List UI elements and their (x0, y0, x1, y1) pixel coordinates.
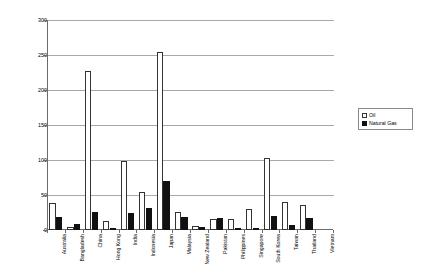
x-axis-label-south-korea: South Korea (274, 234, 283, 275)
x-axis-label-pakistan: Pakistan (221, 234, 230, 275)
x-axis-label-india: India (131, 234, 140, 275)
x-axis-label-indonesia: Indonesia (149, 234, 158, 275)
bar-gas (289, 225, 295, 230)
x-axis-label-taiwan: Taiwan (292, 234, 301, 275)
x-axis-label-japan: Japan (167, 234, 176, 275)
bar-group (282, 20, 295, 230)
x-tick-mark (47, 230, 48, 233)
x-tick-mark (119, 230, 120, 233)
bar-gas (92, 212, 98, 230)
legend-item-oil: Oil (362, 111, 410, 119)
bar-group (210, 20, 223, 230)
x-tick-mark (279, 230, 280, 233)
bar-group (103, 20, 116, 230)
bar-gas (163, 181, 169, 230)
bar-group (175, 20, 188, 230)
bar-group (318, 20, 331, 230)
legend: Oil Natural Gas (358, 108, 413, 130)
bar-group (192, 20, 205, 230)
bar-group (139, 20, 152, 230)
bar-gas (235, 228, 241, 230)
x-axis-label-philippines: Philippines (239, 234, 248, 275)
bar-group (157, 20, 170, 230)
bar-group (228, 20, 241, 230)
bar-gas (56, 217, 62, 230)
legend-swatch-natural-gas-icon (362, 121, 367, 126)
x-tick-mark (65, 230, 66, 233)
bar-group (49, 20, 62, 230)
bar-oil (67, 227, 73, 230)
x-tick-mark (190, 230, 191, 233)
bar-group (246, 20, 259, 230)
x-axis-label-malaysia: Malaysia (185, 234, 194, 275)
x-axis-label-china: China (96, 234, 105, 275)
bar-group (264, 20, 277, 230)
x-axis-label-new-zealand: New Zealand (203, 234, 212, 275)
bar-oil (157, 52, 163, 231)
bar-oil (210, 219, 216, 230)
bar-oil (192, 226, 198, 230)
bar-gas (253, 228, 259, 230)
bar-gas (128, 213, 134, 230)
x-tick-mark (297, 230, 298, 233)
x-tick-mark (136, 230, 137, 233)
bar-oil (175, 212, 181, 230)
x-tick-mark (83, 230, 84, 233)
x-tick-mark (208, 230, 209, 233)
bar-oil (139, 192, 145, 231)
x-tick-mark (226, 230, 227, 233)
x-axis-label-australia: Australia (60, 234, 69, 275)
legend-label-natural-gas: Natural Gas (369, 119, 397, 127)
bar-gas (217, 218, 223, 230)
bar-group (121, 20, 134, 230)
bar-gas (306, 218, 312, 230)
bar-oil (246, 209, 252, 230)
bar-oil (49, 203, 55, 230)
bar-oil (300, 205, 306, 230)
bar-gas (199, 227, 205, 231)
bar-oil (228, 219, 234, 230)
bar-oil (282, 202, 288, 230)
x-tick-mark (244, 230, 245, 233)
bar-gas (146, 208, 152, 230)
x-tick-mark (315, 230, 316, 233)
y-axis-ticks: 300250200150100500 (0, 0, 47, 275)
x-tick-mark (172, 230, 173, 233)
bar-group (67, 20, 80, 230)
bar-gas (181, 217, 187, 230)
x-tick-mark (262, 230, 263, 233)
x-tick-mark (154, 230, 155, 233)
x-tick-mark (333, 230, 334, 233)
bar-group (300, 20, 313, 230)
x-tick-mark (101, 230, 102, 233)
energy-consumption-bar-chart: Million Tonnes (or Equivalent) 300250200… (0, 0, 432, 275)
x-axis-label-bangladesh: Bangladesh (78, 234, 87, 275)
bar-oil (85, 71, 91, 230)
bar-gas (271, 216, 277, 230)
bar-oil (264, 158, 270, 230)
bar-gas (74, 224, 80, 230)
legend-label-oil: Oil (369, 111, 375, 119)
x-axis-label-hong-kong: Hong Kong (114, 234, 123, 275)
legend-swatch-oil-icon (362, 113, 367, 118)
bar-oil (103, 221, 109, 230)
bar-gas (110, 228, 116, 230)
x-axis-label-vietnam: Vietnam (328, 234, 337, 275)
x-axis-label-singapore: Singapore (257, 234, 266, 275)
bar-oil (121, 161, 127, 230)
x-axis-label-thailand: Thailand (310, 234, 319, 275)
bar-group (85, 20, 98, 230)
bars-layer (47, 20, 333, 230)
legend-item-natural-gas: Natural Gas (362, 119, 410, 127)
